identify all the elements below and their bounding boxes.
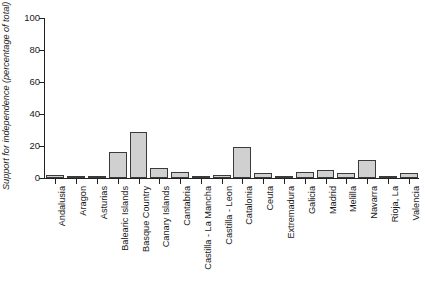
bar xyxy=(400,173,418,178)
x-tick-label-text: Navarra xyxy=(370,186,379,219)
x-tick-mark xyxy=(139,179,140,184)
x-tick-mark xyxy=(97,179,98,184)
x-tick-label-text: Rioja, La xyxy=(391,186,400,222)
x-tick-label-text: Extremadura xyxy=(287,186,296,239)
x-tick-mark xyxy=(367,179,368,184)
bar xyxy=(254,173,272,178)
y-tick-mark xyxy=(39,82,44,83)
x-tick-label: Navarra xyxy=(367,186,376,219)
bar xyxy=(150,168,168,178)
x-tick-label-text: Asturias xyxy=(100,186,109,219)
x-tick-mark xyxy=(263,179,264,184)
x-tick-label: Balearic Islands xyxy=(118,186,127,251)
bar-chart-figure: Support for independence (percentage of … xyxy=(0,0,425,300)
x-tick-label-text: Canary Islands xyxy=(162,186,171,247)
bar xyxy=(317,170,335,178)
x-tick-label: Extremadura xyxy=(284,186,293,239)
x-tick-mark xyxy=(118,179,119,184)
x-tick-label: Aragon xyxy=(76,186,85,216)
x-tick-label: Rioja, La xyxy=(388,186,397,222)
x-tick-mark xyxy=(76,179,77,184)
x-tick-label: Melilla xyxy=(346,186,355,212)
x-tick-label: Cantabria xyxy=(180,186,189,226)
y-tick-label: 100 xyxy=(16,13,40,23)
x-tick-label-text: Castilla - Leon xyxy=(225,186,234,245)
y-tick-label: 40 xyxy=(16,109,40,119)
bar xyxy=(109,152,127,178)
y-tick-label: 20 xyxy=(16,141,40,151)
x-tick-label-text: Catalonia xyxy=(245,186,254,225)
x-tick-label: Ceuta xyxy=(263,186,272,211)
x-axis-tick-labels: AndalusiaAragonAsturiasBalearic IslandsB… xyxy=(45,186,419,298)
y-tick-label: 0 xyxy=(16,173,40,183)
x-tick-mark xyxy=(242,179,243,184)
x-tick-label-text: Valencia xyxy=(412,186,421,221)
x-tick-mark xyxy=(305,179,306,184)
x-tick-mark xyxy=(284,179,285,184)
x-tick-mark xyxy=(326,179,327,184)
x-tick-mark xyxy=(159,179,160,184)
x-tick-label: Castilla - La Mancha xyxy=(201,186,210,270)
x-tick-label-text: Madrid xyxy=(329,186,338,214)
x-tick-label: Valencia xyxy=(409,186,418,221)
x-tick-mark xyxy=(409,179,410,184)
y-tick-mark xyxy=(39,50,44,51)
x-tick-label: Canary Islands xyxy=(159,186,168,247)
bar xyxy=(46,175,64,178)
x-tick-label: Andalusia xyxy=(55,186,64,226)
x-axis-line xyxy=(44,178,419,179)
y-tick-mark xyxy=(39,114,44,115)
bar xyxy=(275,176,293,178)
x-tick-label-text: Balearic Islands xyxy=(121,186,130,251)
y-tick-mark xyxy=(39,146,44,147)
x-tick-mark xyxy=(222,179,223,184)
bar xyxy=(358,160,376,178)
x-tick-label-text: Aragon xyxy=(79,186,88,216)
x-tick-mark xyxy=(346,179,347,184)
bar xyxy=(213,175,231,178)
x-tick-label-text: Galicia xyxy=(308,186,317,214)
x-tick-label-text: Castilla - La Mancha xyxy=(204,186,213,270)
x-tick-label: Basque Country xyxy=(139,186,148,252)
x-tick-label: Castilla - Leon xyxy=(222,186,231,245)
x-tick-mark xyxy=(201,179,202,184)
x-tick-mark xyxy=(180,179,181,184)
bar xyxy=(67,176,85,178)
y-tick-label: 80 xyxy=(16,45,40,55)
bar xyxy=(171,172,189,178)
x-tick-label-text: Andalusia xyxy=(58,186,67,226)
bar xyxy=(337,173,355,178)
bar xyxy=(130,132,148,178)
x-tick-mark xyxy=(55,179,56,184)
x-tick-label: Catalonia xyxy=(242,186,251,225)
x-tick-label: Galicia xyxy=(305,186,314,214)
x-tick-label-text: Cantabria xyxy=(183,186,192,226)
x-tick-label-text: Ceuta xyxy=(266,186,275,211)
bar xyxy=(88,176,106,178)
y-axis-title: Support for independence (percentage of … xyxy=(0,2,12,190)
y-tick-label: 60 xyxy=(16,77,40,87)
x-tick-label: Madrid xyxy=(326,186,335,214)
x-tick-mark xyxy=(388,179,389,184)
x-tick-label-text: Melilla xyxy=(349,186,358,212)
bar xyxy=(379,176,397,178)
bar xyxy=(233,147,251,178)
bar xyxy=(296,172,314,178)
x-tick-label-text: Basque Country xyxy=(142,186,151,252)
y-axis-tick-labels: 020406080100 xyxy=(16,0,40,200)
bar xyxy=(192,176,210,178)
bars-group xyxy=(45,18,419,178)
y-tick-mark xyxy=(39,18,44,19)
y-tick-mark xyxy=(39,178,44,179)
x-tick-label: Asturias xyxy=(97,186,106,219)
